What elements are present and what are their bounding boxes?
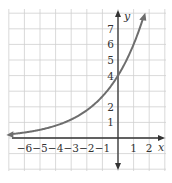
y-tick-labels: 124567	[107, 23, 114, 129]
y-tick-label: 6	[107, 38, 114, 50]
x-tick-labels: −6−5−4−3−2−112	[17, 142, 153, 154]
y-tick-label: 4	[107, 70, 114, 82]
x-tick-label: 2	[146, 142, 153, 154]
x-tick-label: 1	[130, 142, 137, 154]
exponential-curve	[10, 19, 143, 135]
x-tick-label: −2	[79, 142, 94, 154]
y-tick-label: 5	[107, 54, 114, 66]
curve-arrowheads	[6, 13, 146, 138]
y-tick-label: 7	[107, 23, 114, 35]
y-axis-label: y	[123, 10, 131, 23]
x-tick-label: −6	[17, 142, 33, 154]
x-axis-label: x	[158, 141, 165, 154]
x-tick-label: −4	[48, 142, 64, 154]
x-tick-label: −1	[95, 142, 110, 154]
y-tick-label: 1	[107, 116, 114, 128]
exponential-graph: −6−5−4−3−2−112 124567 x y	[0, 0, 172, 183]
y-tick-label: 2	[107, 101, 114, 113]
x-tick-label: −5	[32, 142, 47, 154]
x-tick-label: −3	[63, 142, 78, 154]
